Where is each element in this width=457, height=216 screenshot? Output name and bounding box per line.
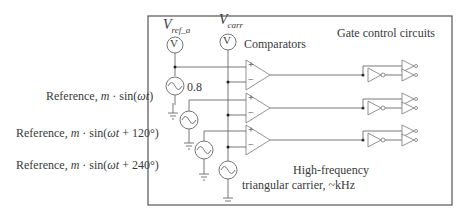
comp-a-minus: − xyxy=(248,74,254,85)
gate-control-label: Gate control circuits xyxy=(337,26,435,41)
reference-c-label: Reference, m · sin(ωt + 240°) xyxy=(16,158,159,173)
gate-driver-a xyxy=(362,60,418,82)
comp-b-plus: + xyxy=(248,92,254,103)
comp-b-minus: − xyxy=(248,107,254,118)
comp-c-minus: − xyxy=(248,139,254,150)
vcarr-meter-glyph: V xyxy=(223,34,231,46)
vref-meter-glyph: V xyxy=(170,37,178,49)
triangle-carrier-source-icon xyxy=(219,161,237,179)
comp-a-plus: + xyxy=(248,59,254,70)
carrier-label-line1: High-frequency xyxy=(293,163,369,178)
carrier-label-line2: triangular carrier, ~kHz xyxy=(242,178,355,193)
reference-a-label: Reference, m · sin(ωt) xyxy=(46,89,153,104)
sine-source-a-icon xyxy=(166,77,184,95)
vref-label: Vref_a xyxy=(163,17,190,35)
gate-driver-c xyxy=(362,125,418,147)
comparators-label: Comparators xyxy=(244,37,306,52)
vcarr-label: Vcarr xyxy=(219,12,243,30)
sine-source-b-icon xyxy=(180,111,198,129)
reference-b-label: Reference, m · sin(ωt + 120°) xyxy=(16,126,159,141)
source-amplitude: 0.8 xyxy=(187,80,202,95)
comp-c-plus: + xyxy=(248,124,254,135)
gate-driver-b xyxy=(362,93,418,115)
sine-source-c-icon xyxy=(195,141,213,159)
